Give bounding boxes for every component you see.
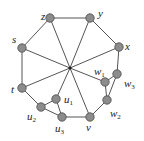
spoke-edge-v	[70, 68, 90, 117]
node-u2	[37, 103, 45, 111]
node-x	[115, 43, 123, 51]
graph-diagram: zyxstw1w3w2vu3u2u1	[0, 0, 144, 141]
node-label-x: x	[124, 40, 130, 52]
node-s	[18, 44, 26, 52]
node-label-w2: w2	[110, 107, 121, 121]
node-w3	[113, 70, 121, 78]
node-y	[86, 14, 94, 22]
node-label-u2: u2	[27, 110, 37, 124]
node-z	[46, 14, 54, 22]
node-label-t: t	[11, 83, 15, 95]
node-u3	[58, 113, 66, 121]
node-label-y: y	[97, 7, 103, 19]
node-label-s: s	[12, 33, 16, 45]
node-label-z: z	[40, 10, 46, 22]
node-v	[86, 113, 94, 121]
edge-z-s	[22, 18, 50, 48]
node-label-w3: w3	[124, 77, 135, 91]
node-label-u3: u3	[55, 122, 65, 136]
node-w1	[101, 78, 109, 86]
node-label-w1: w1	[94, 65, 105, 79]
node-label-v: v	[86, 121, 91, 133]
node-t	[18, 84, 26, 92]
node-w2	[103, 96, 111, 104]
edge-y-x	[90, 18, 119, 47]
center-hub-point	[69, 67, 72, 70]
node-label-u1: u1	[64, 93, 74, 107]
node-u1	[52, 95, 60, 103]
